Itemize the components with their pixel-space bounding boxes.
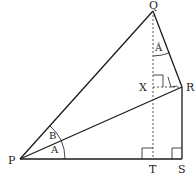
arc-angle-A-Q: [153, 53, 169, 56]
segment-PR: [20, 87, 182, 159]
label-S: S: [178, 164, 186, 175]
label-Q: Q: [149, 0, 158, 11]
label-angle-A-Q: Â: [155, 43, 162, 53]
label-angle-A-P: A: [51, 145, 58, 155]
label-X: X: [139, 82, 147, 93]
diagram-canvas: [0, 0, 196, 176]
label-angle-B-P: B: [49, 131, 56, 141]
label-P: P: [8, 155, 15, 166]
right-angle-R: [168, 77, 177, 87]
right-angle-X: [153, 75, 163, 87]
right-angle-S: [172, 148, 182, 159]
label-R: R: [186, 82, 194, 93]
right-angle-T: [142, 148, 153, 159]
arc-angle-A-P: [61, 140, 65, 159]
geometry-diagram: Q R X P T S A B Â: [0, 0, 196, 176]
label-T: T: [149, 164, 156, 175]
segment-PQ: [20, 11, 153, 159]
